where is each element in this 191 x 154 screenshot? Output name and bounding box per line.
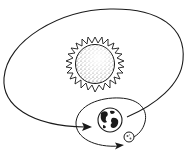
earth-icon (98, 108, 122, 132)
sun-earth-moon-diagram (0, 0, 191, 154)
sun-icon (66, 37, 124, 92)
moon-icon (124, 132, 134, 142)
